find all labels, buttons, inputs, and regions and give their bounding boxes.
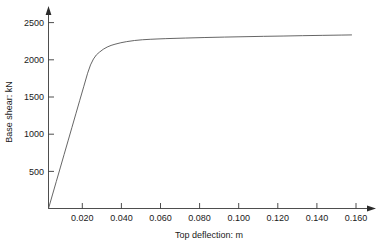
- x-tick-label: 0.100: [227, 213, 250, 223]
- y-tick-label: 1000: [24, 129, 44, 139]
- x-tick-label: 0.020: [71, 213, 94, 223]
- y-tick-label: 2500: [24, 18, 44, 28]
- chart-canvas: 2500 2000 1500 1000 500 0.020 0.040 0.06…: [0, 0, 382, 245]
- y-axis-arrow-icon: [46, 6, 52, 15]
- x-tick-label: 0.060: [149, 213, 172, 223]
- y-axis-title: Base shear: kN: [4, 81, 14, 143]
- x-axis-arrow-icon: [367, 206, 376, 212]
- x-tick-label: 0.080: [188, 213, 211, 223]
- x-tick-label: 0.160: [345, 213, 368, 223]
- y-tick-label: 2000: [24, 55, 44, 65]
- x-tick-marks: [82, 203, 356, 209]
- pushover-curve: [49, 35, 352, 209]
- x-tick-label: 0.040: [110, 213, 133, 223]
- chart-figure: 2500 2000 1500 1000 500 0.020 0.040 0.06…: [0, 0, 382, 245]
- x-tick-label: 0.120: [267, 213, 290, 223]
- y-tick-label: 500: [29, 167, 44, 177]
- x-tick-label: 0.140: [306, 213, 329, 223]
- y-tick-marks: [49, 23, 55, 172]
- y-tick-label: 1500: [24, 92, 44, 102]
- x-axis-title: Top deflection: m: [175, 230, 243, 240]
